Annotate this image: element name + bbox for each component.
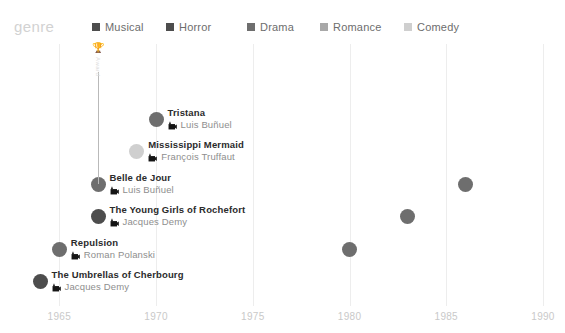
point-director-row: Jacques Demy (52, 281, 130, 293)
chart-title: genre (14, 18, 54, 35)
point-marker[interactable] (342, 242, 357, 257)
legend-item-comedy[interactable]: Comedy (404, 21, 459, 33)
point-label-group: TristanaLuis Buñuel (168, 107, 232, 131)
point-label-group: The Young Girls of RochefortJacques Demy (110, 204, 246, 228)
legend-item-label: Romance (333, 21, 381, 33)
point-marker[interactable] (52, 242, 67, 257)
gridline-1985 (446, 44, 447, 306)
point-title: Tristana (168, 107, 206, 119)
point-director-row: Luis Buñuel (110, 184, 174, 196)
point-director: Luis Buñuel (123, 184, 174, 196)
point-director: Jacques Demy (65, 281, 130, 293)
legend-swatch-icon (404, 23, 412, 31)
point-title: Belle de Jour (110, 172, 172, 184)
movie-camera-icon (110, 186, 119, 195)
movie-camera-icon (148, 153, 157, 162)
point-label-group: The Umbrellas of CherbourgJacques Demy (52, 269, 184, 293)
point-label-group: Mississippi MermaidFrançois Truffaut (148, 139, 244, 163)
gridline-1965 (59, 44, 60, 306)
trophy-icon: 🏆 (92, 43, 104, 53)
movie-camera-icon (110, 218, 119, 227)
point-director-row: Luis Buñuel (168, 119, 232, 131)
point-marker[interactable] (458, 177, 473, 192)
point-director-row: François Truffaut (148, 151, 235, 163)
chart-legend: genre MusicalHorrorDramaRomanceComedy (0, 0, 565, 44)
point-marker[interactable] (33, 274, 48, 289)
point-title: The Young Girls of Rochefort (110, 204, 246, 216)
movie-camera-icon (52, 283, 61, 292)
gridline-1975 (253, 44, 254, 306)
x-axis-tick-label: 1980 (338, 311, 361, 322)
movie-camera-icon (168, 121, 177, 130)
legend-item-musical[interactable]: Musical (92, 21, 144, 33)
gridline-1990 (543, 44, 544, 306)
point-title: The Umbrellas of Cherbourg (52, 269, 184, 281)
point-director-row: Roman Polanski (71, 249, 155, 261)
legend-swatch-icon (320, 23, 328, 31)
point-marker[interactable] (91, 209, 106, 224)
point-director: Roman Polanski (84, 249, 155, 261)
legend-item-label: Musical (105, 21, 144, 33)
legend-item-label: Drama (260, 21, 294, 33)
x-axis-tick-label: 1965 (48, 311, 71, 322)
point-marker[interactable] (400, 209, 415, 224)
legend-swatch-icon (247, 23, 255, 31)
point-director: Jacques Demy (123, 216, 188, 228)
legend-item-romance[interactable]: Romance (320, 21, 381, 33)
legend-item-drama[interactable]: Drama (247, 21, 294, 33)
legend-item-horror[interactable]: Horror (166, 21, 211, 33)
legend-swatch-icon (166, 23, 174, 31)
x-axis-tick-label: 1970 (144, 311, 167, 322)
movie-camera-icon (71, 251, 80, 260)
legend-swatch-icon (92, 23, 100, 31)
gridline-1980 (350, 44, 351, 306)
plot-area: 196519701975198019851990TristanaLuis Buñ… (0, 44, 565, 333)
point-title: Repulsion (71, 237, 118, 249)
point-label-group: RepulsionRoman Polanski (71, 237, 155, 261)
point-label-group: Belle de JourLuis Buñuel (110, 172, 174, 196)
award-stem (98, 72, 99, 184)
point-director: Luis Buñuel (181, 119, 232, 131)
point-marker[interactable] (129, 144, 144, 159)
point-marker[interactable] (149, 112, 164, 127)
award-label: Award (95, 57, 101, 76)
x-axis-tick-label: 1990 (531, 311, 554, 322)
point-director-row: Jacques Demy (110, 216, 188, 228)
point-title: Mississippi Mermaid (148, 139, 244, 151)
legend-item-label: Horror (179, 21, 211, 33)
x-axis-tick-label: 1975 (241, 311, 264, 322)
point-director: François Truffaut (161, 151, 235, 163)
legend-item-label: Comedy (417, 21, 459, 33)
x-axis-tick-label: 1985 (435, 311, 458, 322)
